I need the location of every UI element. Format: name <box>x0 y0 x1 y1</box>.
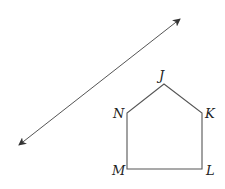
diagram-svg <box>0 0 225 189</box>
vertex-label-n: N <box>113 107 124 120</box>
vertex-label-j: J <box>159 69 164 82</box>
pentagon-jklmn <box>127 84 202 169</box>
vertex-label-k: K <box>205 107 215 120</box>
vertex-label-l: L <box>206 164 215 177</box>
vertex-label-m: M <box>112 164 125 177</box>
diagram-canvas: J K L M N <box>0 0 225 189</box>
double-arrow-line <box>19 19 180 145</box>
